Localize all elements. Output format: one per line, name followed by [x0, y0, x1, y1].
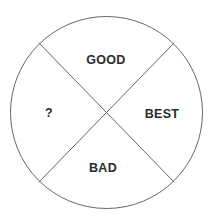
quadrant-label-right: BEST — [145, 107, 180, 121]
quadrant-diagram: GOOD ? BEST BAD — [0, 0, 210, 221]
quadrant-label-top: GOOD — [86, 53, 125, 67]
quadrant-label-left: ? — [45, 106, 53, 120]
quadrant-label-bottom: BAD — [89, 161, 117, 175]
